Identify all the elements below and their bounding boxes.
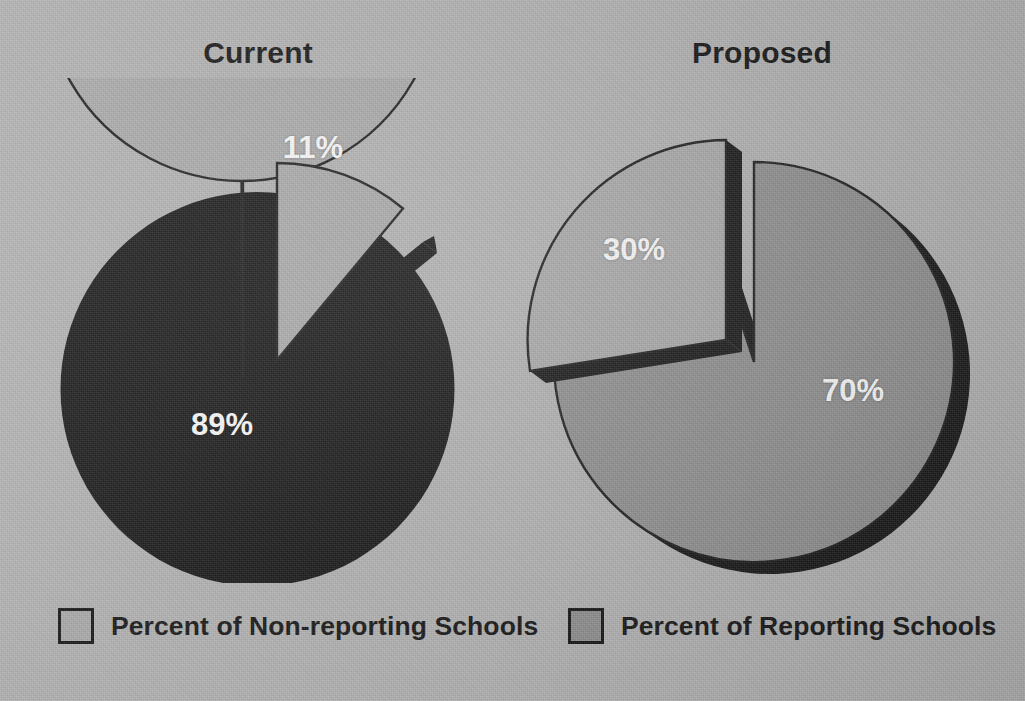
pie-chart-current xyxy=(28,78,498,583)
slice-label-proposed-70: 70% xyxy=(822,373,884,409)
slice-current-89 xyxy=(45,78,455,583)
chart-title-current: Current xyxy=(203,36,313,70)
slice-label-proposed-30: 30% xyxy=(603,232,665,268)
legend-swatch-non-reporting xyxy=(58,608,94,644)
pie-chart-proposed xyxy=(496,72,996,592)
chart-title-proposed: Proposed xyxy=(692,36,832,70)
legend-swatch-reporting xyxy=(568,608,604,644)
legend-label-reporting: Percent of Reporting Schools xyxy=(621,611,996,642)
slice-label-current-11: 11% xyxy=(283,130,343,166)
chart-page: Current 11% 89% Proposed xyxy=(0,0,1025,701)
slice-label-current-89: 89% xyxy=(191,407,253,443)
legend-label-non-reporting: Percent of Non-reporting Schools xyxy=(111,611,538,642)
legend-item-non-reporting-schools: Percent of Non-reporting Schools xyxy=(58,608,538,644)
legend-item-reporting-schools: Percent of Reporting Schools xyxy=(568,608,996,644)
chart-legend: Percent of Non-reporting Schools Percent… xyxy=(0,604,1025,668)
